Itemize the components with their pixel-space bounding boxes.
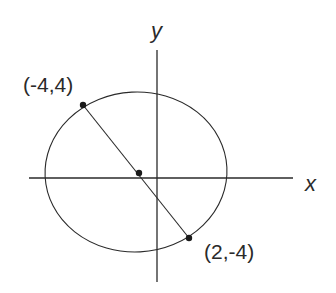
diagram-canvas: y x (-4,4) (2,-4) — [0, 0, 336, 293]
point-endpoint-2 — [186, 235, 192, 241]
chord-line — [83, 105, 189, 238]
point-label-endpoint-1: (-4,4) — [23, 73, 73, 96]
y-axis-label: y — [149, 18, 164, 43]
point-label-endpoint-2: (2,-4) — [204, 240, 254, 263]
x-axis-label: x — [304, 171, 317, 196]
point-midpoint — [136, 170, 142, 176]
point-endpoint-1 — [80, 102, 86, 108]
